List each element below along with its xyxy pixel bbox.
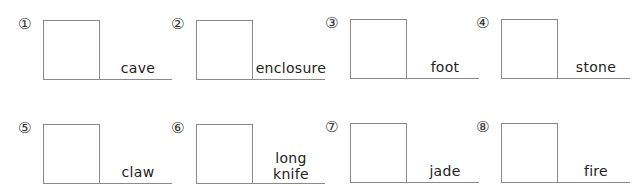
item-word: enclosure [253, 60, 329, 76]
item-number: ② [171, 17, 184, 32]
item-word: foot [407, 59, 483, 75]
item-word: jade [407, 163, 483, 179]
underline [43, 79, 172, 80]
item-word: claw [100, 164, 176, 180]
answer-box[interactable] [350, 123, 407, 182]
underline [350, 182, 479, 183]
item-number: ④ [476, 16, 489, 31]
underline [350, 78, 479, 79]
underline [501, 182, 630, 183]
answer-box[interactable] [350, 19, 407, 78]
answer-item-6: ⑥ long knife [196, 124, 346, 186]
answer-item-8: ⑧ fire [501, 123, 642, 186]
item-number: ① [18, 17, 31, 32]
underline [196, 183, 325, 184]
item-word: cave [100, 60, 176, 76]
answer-box[interactable] [501, 19, 558, 78]
answer-item-4: ④ stone [501, 19, 642, 83]
item-number: ⑦ [325, 120, 338, 135]
underline [196, 79, 325, 80]
item-number: ③ [325, 16, 338, 31]
answer-box[interactable] [196, 20, 253, 79]
answer-box[interactable] [43, 20, 100, 79]
item-word: fire [558, 163, 634, 179]
answer-box[interactable] [196, 124, 253, 183]
item-number: ⑤ [18, 121, 31, 136]
item-number: ⑧ [476, 120, 489, 135]
item-number: ⑥ [171, 121, 184, 136]
underline [501, 78, 630, 79]
answer-item-2: ② enclosure [196, 20, 346, 84]
answer-box[interactable] [43, 124, 100, 183]
item-word: stone [558, 59, 634, 75]
underline [43, 183, 172, 184]
answer-box[interactable] [501, 123, 558, 182]
item-word: long knife [253, 150, 329, 182]
